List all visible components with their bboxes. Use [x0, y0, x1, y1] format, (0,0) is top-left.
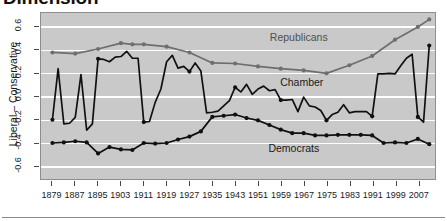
data-point [381, 141, 385, 145]
x-tick-mark [235, 181, 236, 186]
y-tick-mark [34, 166, 39, 167]
data-point [393, 38, 397, 42]
data-point [336, 133, 340, 137]
y-tick-label: -0.6 [13, 152, 23, 178]
y-tick-mark [34, 143, 39, 144]
data-point [62, 140, 66, 144]
x-tick-mark [74, 181, 75, 186]
data-point [404, 141, 408, 145]
data-point [187, 70, 191, 74]
data-point [302, 131, 306, 135]
chart-lines [41, 13, 435, 180]
data-point [233, 85, 237, 89]
data-point [210, 61, 214, 65]
y-tick-label: 0.4 [13, 35, 23, 61]
data-point [73, 139, 77, 143]
data-point [73, 52, 77, 56]
data-point [85, 140, 89, 144]
data-point [324, 71, 328, 75]
data-point [279, 67, 283, 71]
data-point [187, 135, 191, 139]
data-point [96, 57, 100, 61]
x-tick-mark [419, 181, 420, 186]
data-point [142, 120, 146, 124]
figure-title: Dimension [3, 0, 98, 9]
plot-area: Republicans Chamber Democrats [40, 12, 436, 180]
data-point [153, 141, 157, 145]
figure-container: Dimension Liberal – Conservative -0.6-0.… [0, 0, 447, 221]
data-point [427, 43, 431, 47]
data-point [142, 42, 146, 46]
x-tick-mark [327, 181, 328, 186]
data-point [427, 17, 431, 21]
x-tick-mark [166, 181, 167, 186]
data-point [199, 129, 203, 133]
data-point [130, 42, 134, 46]
data-point [96, 151, 100, 155]
data-point [176, 137, 180, 141]
y-tick-mark [34, 49, 39, 50]
data-point [165, 45, 169, 49]
data-point [244, 116, 248, 120]
data-point [324, 133, 328, 137]
data-point [142, 141, 146, 145]
data-point [210, 115, 214, 119]
x-tick-mark [212, 181, 213, 186]
data-point [347, 63, 351, 67]
data-point [50, 50, 54, 54]
data-point [393, 140, 397, 144]
data-point [302, 68, 306, 72]
data-point [233, 112, 237, 116]
series-label-republicans: Republicans [270, 31, 328, 43]
data-point [279, 128, 283, 132]
data-point [427, 142, 431, 146]
data-point [256, 118, 260, 122]
data-point [370, 114, 374, 118]
data-point [267, 123, 271, 127]
x-tick-mark [143, 181, 144, 186]
data-point [130, 148, 134, 152]
x-tick-mark [189, 181, 190, 186]
data-point [50, 118, 54, 122]
data-point [370, 54, 374, 58]
data-point [290, 131, 294, 135]
data-point [96, 47, 100, 51]
data-point [119, 147, 123, 151]
series-label-chamber: Chamber [280, 76, 323, 88]
data-point [187, 50, 191, 54]
data-point [165, 141, 169, 145]
x-tick-mark [120, 181, 121, 186]
data-point [370, 133, 374, 137]
data-point [256, 64, 260, 68]
x-tick-mark [350, 181, 351, 186]
y-tick-label: -0.4 [13, 129, 23, 155]
data-point [279, 98, 283, 102]
y-tick-label: 0.6 [13, 12, 23, 38]
x-tick-mark [304, 181, 305, 186]
x-tick-mark [97, 181, 98, 186]
x-tick-mark [51, 181, 52, 186]
y-tick-mark [34, 96, 39, 97]
data-point [359, 133, 363, 137]
y-tick-label: -0.2 [13, 105, 23, 131]
y-tick-label: 0.2 [13, 59, 23, 85]
series-line-republicans [52, 19, 429, 73]
data-point [313, 133, 317, 137]
data-point [233, 61, 237, 65]
data-point [347, 133, 351, 137]
data-point [416, 25, 420, 29]
y-tick-mark [34, 119, 39, 120]
data-point [416, 137, 420, 141]
y-tick-mark [34, 73, 39, 74]
data-point [222, 114, 226, 118]
series-label-democrats: Democrats [268, 142, 319, 154]
data-point [416, 115, 420, 119]
x-tick-mark [396, 181, 397, 186]
x-tick-mark [373, 181, 374, 186]
y-tick-label: 0.0 [13, 82, 23, 108]
bottom-divider [2, 217, 445, 218]
data-point [119, 41, 123, 45]
y-tick-mark [34, 26, 39, 27]
x-tick-label: 2007 [399, 190, 439, 200]
data-point [107, 145, 111, 149]
